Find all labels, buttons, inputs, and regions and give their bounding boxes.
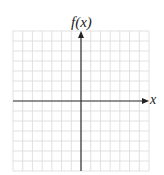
y-axis-label: f(x)	[71, 14, 92, 31]
y-axis-arrow-icon	[78, 31, 84, 38]
x-axis-label: x	[150, 92, 156, 108]
x-axis-arrow-icon	[142, 98, 149, 104]
